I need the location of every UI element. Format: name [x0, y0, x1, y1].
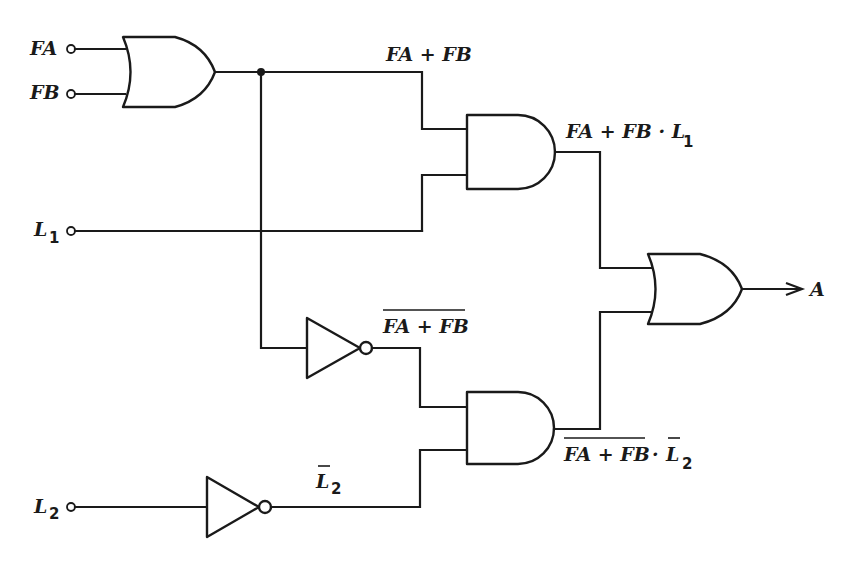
input-l1-subscript: 1	[49, 229, 59, 247]
logic-circuit-diagram: FA FB L 1 L 2 FA + FB FA + FB · L 1 FA +…	[0, 0, 857, 570]
input-fb: FB	[29, 81, 125, 103]
not-gate-2-bubble	[259, 501, 271, 513]
signal-or1-label: FA + FB	[385, 43, 472, 65]
input-fa-label: FA	[29, 37, 57, 59]
input-l1: L 1	[33, 218, 422, 247]
input-l2: L 2	[33, 495, 207, 523]
wire-not2-to-and2	[271, 450, 467, 507]
input-l2-subscript: 2	[49, 505, 59, 523]
not-gate-2	[207, 477, 259, 537]
signal-not1-label: FA + FB	[382, 315, 469, 337]
input-fb-terminal	[67, 90, 75, 98]
not-gate-1-bubble	[360, 342, 372, 354]
wire-and2-to-or2	[554, 312, 651, 429]
wire-or1-to-not1	[261, 72, 307, 348]
signal-and2-subscript: 2	[682, 455, 692, 473]
input-l2-terminal	[67, 503, 75, 511]
and-gate-2	[467, 392, 554, 464]
signal-and2-dot: ·	[652, 443, 659, 465]
input-l1-terminal	[67, 227, 75, 235]
signal-and2-l-label: L	[665, 443, 679, 465]
not-gate-1	[307, 318, 360, 378]
signal-and2-label: FA + FB	[563, 443, 650, 465]
input-l1-label: L	[33, 218, 47, 240]
input-fa: FA	[29, 37, 125, 59]
input-l2-label: L	[33, 495, 47, 517]
input-fa-terminal	[67, 45, 75, 53]
signal-not2-label: L	[315, 470, 329, 492]
signal-not2-subscript: 2	[331, 480, 341, 498]
signal-and1-label: FA + FB · L	[565, 120, 685, 142]
wire-or1-to-and1	[215, 72, 467, 129]
wire-l1-to-and1	[422, 175, 467, 231]
and-gate-1	[467, 115, 555, 189]
or-gate-2	[648, 254, 742, 324]
wire-not1-to-and2	[372, 348, 467, 407]
or-gate-1	[123, 37, 215, 107]
signal-and1-subscript: 1	[683, 133, 693, 151]
input-fb-label: FB	[29, 81, 60, 103]
wire-and1-to-or2	[555, 152, 651, 268]
output-a-label: A	[808, 278, 825, 300]
